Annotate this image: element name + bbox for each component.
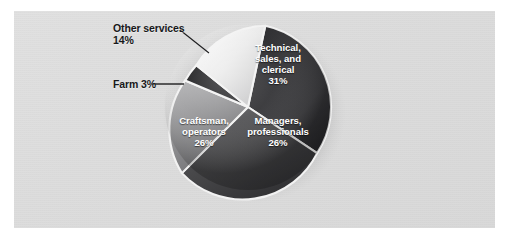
slice-label-craftsman-percent: 26%: [168, 137, 240, 148]
slice-label-managers-line2: professionals: [236, 126, 320, 137]
slice-label-managers-percent: 26%: [236, 137, 320, 148]
slice-label-technical-line1: Technical,: [241, 42, 315, 53]
slice-label-craftsman-line2: operators: [168, 126, 240, 137]
slice-label-other-services-percent: 14%: [113, 34, 185, 46]
slice-label-technical-line2: sales, and: [241, 53, 315, 64]
slice-label-managers: Managers, professionals 26%: [236, 115, 320, 148]
slice-label-farm-text: Farm 3%: [113, 78, 156, 90]
pie-chart-figure: Other services 14% Farm 3% Technical, sa…: [0, 0, 506, 239]
slice-label-technical-percent: 31%: [241, 75, 315, 86]
slice-label-technical-line3: clerical: [241, 64, 315, 75]
slice-label-farm: Farm 3%: [113, 78, 156, 90]
slice-label-technical: Technical, sales, and clerical 31%: [241, 42, 315, 87]
slice-label-other-services: Other services 14%: [113, 22, 185, 46]
slice-label-craftsman: Craftsman, operators 26%: [168, 115, 240, 148]
slice-label-other-services-name: Other services: [113, 22, 185, 34]
slice-label-craftsman-line1: Craftsman,: [168, 115, 240, 126]
slice-label-managers-line1: Managers,: [236, 115, 320, 126]
